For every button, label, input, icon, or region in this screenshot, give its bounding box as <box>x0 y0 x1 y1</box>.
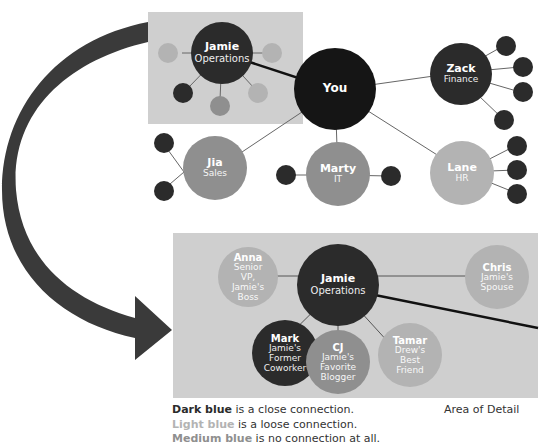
label-mark: Mark Jamie's Former Coworker <box>264 333 307 374</box>
legend-light: Light blue is a loose connection. <box>172 418 380 433</box>
label-jamie-top: Jamie Operations <box>195 41 250 64</box>
label-lane: Lane HR <box>447 162 477 184</box>
zoom-arrow <box>2 22 172 360</box>
legend-medium: Medium blue is no connection at all. <box>172 432 380 447</box>
label-anna: Anna Senior VP, Jamie's Boss <box>232 252 264 303</box>
label-jamie-detail: Jamie Operations <box>311 273 366 296</box>
label-tamar: Tamar Drew's Best Friend <box>393 335 427 376</box>
label-zack: Zack Finance <box>444 63 478 85</box>
label-jia: Jia Sales <box>203 157 227 179</box>
area-of-detail-label: Area of Detail <box>444 403 519 416</box>
legend-dark: Dark blue is a close connection. <box>172 403 380 418</box>
legend: Dark blue is a close connection. Light b… <box>172 403 380 447</box>
label-marty: Marty IT <box>320 163 356 185</box>
label-cj: CJ Jamie's Favorite Blogger <box>320 342 356 383</box>
label-you: You <box>323 82 347 95</box>
label-chris: Chris Jamie's Spouse <box>481 262 514 293</box>
